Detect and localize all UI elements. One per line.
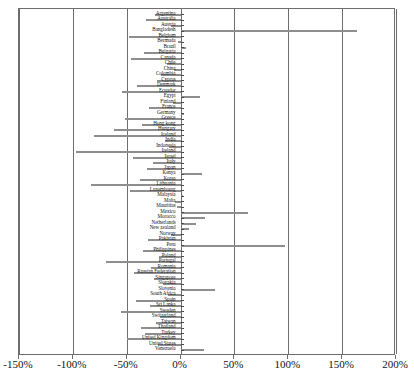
x-tick-label: 200% [382, 358, 408, 370]
y-tick-mark [181, 135, 184, 136]
y-tick-mark [181, 163, 184, 164]
bar [181, 30, 358, 32]
x-tick-label: 50% [223, 358, 243, 370]
y-tick-mark [181, 223, 184, 224]
bar [181, 349, 205, 351]
bar [181, 212, 249, 214]
y-tick-mark [181, 58, 184, 59]
bar [181, 173, 203, 175]
y-tick-mark [181, 25, 184, 26]
y-tick-mark [181, 14, 184, 15]
y-tick-mark [181, 80, 184, 81]
y-tick-mark [181, 196, 184, 197]
x-tick-label: -150% [3, 358, 32, 370]
y-tick-mark [181, 267, 184, 268]
y-tick-mark [181, 295, 184, 296]
y-tick-mark [181, 251, 184, 252]
y-tick-mark [181, 179, 184, 180]
y-tick-mark [181, 168, 184, 169]
y-tick-mark [181, 53, 184, 54]
category-label: Venezuela [155, 346, 175, 352]
horizontal-bar-chart: ArgentinaAustraliaAustriaBangladeshBelgi… [0, 0, 414, 390]
y-tick-mark [181, 124, 184, 125]
y-tick-mark [181, 273, 184, 274]
x-tick-label: 0% [172, 358, 187, 370]
y-tick-mark [181, 333, 184, 334]
y-tick-mark [181, 152, 184, 153]
y-tick-mark [181, 322, 184, 323]
y-tick-mark [181, 311, 184, 312]
y-tick-mark [181, 97, 184, 98]
y-tick-mark [181, 289, 184, 290]
y-tick-mark [181, 245, 184, 246]
y-tick-mark [181, 113, 184, 114]
y-tick-mark [181, 69, 184, 70]
y-tick-mark [181, 141, 184, 142]
y-tick-mark [181, 350, 184, 351]
y-tick-mark [181, 20, 184, 21]
x-tick-label: 150% [328, 358, 354, 370]
plot-area: ArgentinaAustraliaAustriaBangladeshBelgi… [18, 8, 395, 355]
y-tick-mark [181, 119, 184, 120]
bar [181, 289, 215, 291]
y-tick-mark [181, 207, 184, 208]
y-tick-mark [181, 190, 184, 191]
y-tick-mark [181, 185, 184, 186]
y-tick-mark [181, 64, 184, 65]
y-tick-mark [181, 42, 184, 43]
y-tick-mark [181, 75, 184, 76]
x-tick-label: -50% [114, 358, 138, 370]
y-tick-mark [181, 212, 184, 213]
y-tick-mark [181, 278, 184, 279]
y-tick-mark [181, 36, 184, 37]
y-tick-mark [181, 31, 184, 32]
y-tick-mark [181, 300, 184, 301]
y-tick-mark [181, 284, 184, 285]
y-tick-mark [181, 229, 184, 230]
y-tick-mark [181, 47, 184, 48]
y-tick-mark [181, 344, 184, 345]
bar [181, 245, 285, 247]
x-tick-label: -100% [57, 358, 86, 370]
y-tick-mark [181, 339, 184, 340]
gridline-200 [396, 9, 397, 354]
y-tick-mark [181, 157, 184, 158]
y-tick-mark [181, 317, 184, 318]
y-tick-mark [181, 201, 184, 202]
bar-row: Venezuela [19, 348, 394, 354]
y-tick-mark [181, 91, 184, 92]
y-tick-mark [181, 240, 184, 241]
bar-rows: ArgentinaAustraliaAustriaBangladeshBelgi… [19, 9, 394, 354]
y-tick-mark [181, 256, 184, 257]
y-tick-mark [181, 130, 184, 131]
y-tick-mark [181, 174, 184, 175]
bar [181, 217, 206, 219]
y-tick-mark [181, 146, 184, 147]
y-tick-mark [181, 234, 184, 235]
y-tick-mark [181, 262, 184, 263]
y-tick-mark [181, 108, 184, 109]
y-tick-mark [181, 218, 184, 219]
y-tick-mark [181, 102, 184, 103]
y-tick-mark [181, 86, 184, 87]
x-tick-label: 100% [274, 358, 300, 370]
y-tick-mark [181, 328, 184, 329]
y-tick-mark [181, 306, 184, 307]
